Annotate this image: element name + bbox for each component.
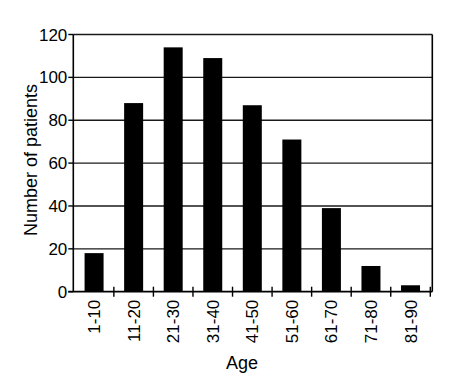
x-tick-label: 41-50 [243,300,262,343]
bar-81-90 [401,285,420,291]
bar-61-70 [322,208,341,292]
x-tick-label: 61-70 [322,300,341,343]
y-tick-label: 100 [39,68,67,87]
x-tick-label: 51-60 [283,300,302,343]
y-axis-label: Number of patients [21,84,42,236]
bar-21-30 [164,47,183,291]
y-tick-label: 0 [58,283,67,302]
x-axis-label: Age [226,353,258,374]
bar-31-40 [203,58,222,292]
y-tick-label: 80 [48,111,67,130]
plot-area: 0204060801001201-1011-2021-3031-4041-505… [0,0,450,387]
y-tick-label: 60 [48,154,67,173]
x-tick-label: 11-20 [125,300,144,342]
bar-41-50 [243,105,262,291]
x-tick-label: 71-80 [362,300,381,343]
bar-51-60 [282,140,301,292]
x-tick-label: 31-40 [204,300,223,343]
bar-71-80 [361,266,380,292]
y-tick-label: 20 [48,240,67,259]
bar-11-20 [124,103,143,292]
x-tick-label: 81-90 [402,300,421,343]
bar-1-10 [85,253,104,292]
y-tick-label: 40 [48,197,67,216]
x-tick-label: 1-10 [85,300,104,334]
bar-chart: 0204060801001201-1011-2021-3031-4041-505… [0,0,450,387]
y-tick-label: 120 [39,26,67,45]
x-tick-label: 21-30 [164,300,183,343]
